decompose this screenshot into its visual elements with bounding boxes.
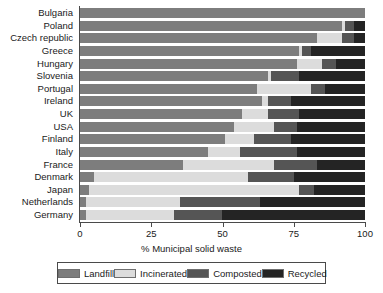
bar-row bbox=[80, 46, 365, 56]
bar-segment-incinerated bbox=[86, 210, 174, 220]
bar-row bbox=[80, 172, 365, 182]
bar-segment-incinerated bbox=[183, 160, 274, 170]
y-axis-label: Germany bbox=[0, 210, 76, 220]
x-tick-label: 75 bbox=[288, 228, 299, 239]
y-axis-label: UK bbox=[0, 109, 76, 119]
legend-item: Landfill bbox=[58, 268, 114, 279]
bar-row bbox=[80, 122, 365, 132]
legend-swatch-icon bbox=[187, 269, 209, 278]
bar-segment-recycled bbox=[297, 147, 365, 157]
bar-segment-composted bbox=[274, 160, 317, 170]
x-tick-mark bbox=[151, 223, 152, 227]
bar-segment-landfill bbox=[80, 71, 268, 81]
bar-row bbox=[80, 8, 365, 18]
x-tick-mark bbox=[294, 223, 295, 227]
bar-row bbox=[80, 109, 365, 119]
bar-segment-landfill bbox=[80, 147, 208, 157]
y-axis-label: USA bbox=[0, 122, 76, 132]
bar-segment-recycled bbox=[291, 96, 365, 106]
legend-swatch-icon bbox=[114, 269, 136, 278]
bar-row bbox=[80, 96, 365, 106]
x-tick-mark bbox=[365, 223, 366, 227]
legend-item: Recycled bbox=[262, 268, 327, 279]
stacked-bars-plot-area bbox=[80, 8, 365, 220]
bar-segment-landfill bbox=[80, 160, 183, 170]
legend-item: Composted bbox=[187, 268, 262, 279]
legend-label: Composted bbox=[213, 268, 262, 279]
y-axis-label: Greece bbox=[0, 46, 76, 56]
y-axis-label: Finland bbox=[0, 134, 76, 144]
bar-segment-incinerated bbox=[234, 122, 274, 132]
bar-segment-landfill bbox=[80, 172, 94, 182]
bar-segment-recycled bbox=[354, 33, 365, 43]
waste-composition-chart: BulgariaPolandCzech republicGreeceHungar… bbox=[0, 0, 383, 293]
y-axis-label: Hungary bbox=[0, 59, 76, 69]
y-axis-category-labels: BulgariaPolandCzech republicGreeceHungar… bbox=[0, 8, 76, 220]
bar-segment-landfill bbox=[80, 109, 242, 119]
bar-segment-recycled bbox=[297, 122, 365, 132]
y-axis-label: Netherlands bbox=[0, 197, 76, 207]
bar-row bbox=[80, 210, 365, 220]
bar-segment-incinerated bbox=[317, 33, 343, 43]
bar-segment-composted bbox=[322, 59, 336, 69]
y-axis-label: Slovenia bbox=[0, 71, 76, 81]
legend-item: Incinerated bbox=[114, 268, 187, 279]
bar-segment-landfill bbox=[80, 185, 89, 195]
legend-swatch-icon bbox=[262, 269, 284, 278]
y-axis-label: Italy bbox=[0, 147, 76, 157]
bar-segment-composted bbox=[345, 21, 354, 31]
bar-segment-incinerated bbox=[225, 134, 254, 144]
legend-label: Incinerated bbox=[140, 268, 187, 279]
bar-row bbox=[80, 197, 365, 207]
bar-segment-composted bbox=[268, 96, 291, 106]
bar-segment-landfill bbox=[80, 33, 317, 43]
bar-row bbox=[80, 59, 365, 69]
x-tick-mark bbox=[223, 223, 224, 227]
bar-segment-landfill bbox=[80, 21, 342, 31]
bar-segment-incinerated bbox=[208, 147, 239, 157]
bar-segment-recycled bbox=[354, 21, 365, 31]
y-axis-label: Poland bbox=[0, 21, 76, 31]
bar-segment-landfill bbox=[80, 134, 225, 144]
bar-segment-composted bbox=[342, 33, 353, 43]
bar-segment-recycled bbox=[291, 134, 365, 144]
bar-segment-recycled bbox=[299, 71, 365, 81]
bar-segment-composted bbox=[311, 84, 325, 94]
chart-legend: LandfillIncineratedCompostedRecycled bbox=[57, 262, 326, 284]
bar-row bbox=[80, 71, 365, 81]
bar-segment-composted bbox=[180, 197, 260, 207]
bar-row bbox=[80, 160, 365, 170]
bar-segment-recycled bbox=[260, 197, 365, 207]
bar-segment-recycled bbox=[314, 185, 365, 195]
x-tick-label: 0 bbox=[77, 228, 82, 239]
y-axis-label: France bbox=[0, 160, 76, 170]
bar-segment-landfill bbox=[80, 84, 257, 94]
bar-row bbox=[80, 21, 365, 31]
x-tick-label: 100 bbox=[357, 228, 373, 239]
bar-segment-incinerated bbox=[257, 84, 311, 94]
bar-segment-incinerated bbox=[242, 109, 268, 119]
bar-segment-incinerated bbox=[297, 59, 323, 69]
bar-segment-composted bbox=[174, 210, 222, 220]
bar-row bbox=[80, 185, 365, 195]
bar-segment-recycled bbox=[317, 160, 365, 170]
bar-segment-incinerated bbox=[86, 197, 180, 207]
bar-segment-composted bbox=[299, 185, 313, 195]
legend-swatch-icon bbox=[58, 269, 80, 278]
y-axis-label: Bulgaria bbox=[0, 8, 76, 18]
bar-segment-composted bbox=[240, 147, 297, 157]
bar-segment-composted bbox=[268, 109, 299, 119]
bar-segment-landfill bbox=[80, 59, 297, 69]
legend-label: Landfill bbox=[84, 268, 114, 279]
x-tick-label: 25 bbox=[146, 228, 157, 239]
bar-segment-recycled bbox=[325, 84, 365, 94]
bar-segment-incinerated bbox=[94, 172, 248, 182]
x-axis-title: % Municipal solid waste bbox=[0, 243, 383, 254]
y-axis-line bbox=[79, 6, 80, 222]
bar-segment-composted bbox=[302, 46, 311, 56]
bar-segment-landfill bbox=[80, 46, 299, 56]
bar-segment-landfill bbox=[80, 122, 234, 132]
bar-segment-recycled bbox=[311, 46, 365, 56]
bar-segment-incinerated bbox=[89, 185, 300, 195]
bar-segment-composted bbox=[248, 172, 294, 182]
